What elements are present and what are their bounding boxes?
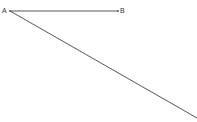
geometry-diagram: A B xyxy=(0,0,197,122)
point-a-label: A xyxy=(2,7,7,14)
point-b-dot xyxy=(117,10,119,12)
point-b-label: B xyxy=(120,7,125,14)
point-a-dot xyxy=(9,10,11,12)
ray-from-a xyxy=(10,11,197,118)
